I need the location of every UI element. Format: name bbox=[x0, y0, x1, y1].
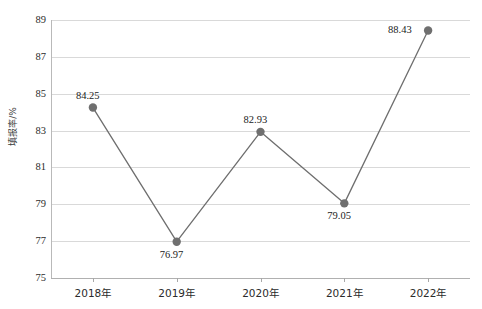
y-axis-tick-label: 83 bbox=[20, 126, 46, 137]
y-axis-tick-labels: 8987858381797775 bbox=[20, 0, 46, 309]
gridline bbox=[51, 57, 470, 58]
data-point-label: 79.05 bbox=[327, 211, 351, 222]
x-axis-tick-label: 2019年 bbox=[142, 285, 212, 300]
y-axis-tick-label: 75 bbox=[20, 273, 46, 284]
plot-area bbox=[51, 20, 470, 278]
y-axis-tick-label: 79 bbox=[20, 199, 46, 210]
y-axis-title: 填报率/% bbox=[6, 82, 19, 172]
y-axis-tick-label: 85 bbox=[20, 89, 46, 100]
y-axis-tick-label: 87 bbox=[20, 52, 46, 63]
data-point-label: 84.25 bbox=[76, 91, 100, 102]
y-axis-tick-label: 81 bbox=[20, 162, 46, 173]
x-axis-tick-mark bbox=[428, 278, 429, 282]
x-axis-tick-mark bbox=[261, 278, 262, 282]
x-axis-tick-label: 2022年 bbox=[393, 285, 463, 300]
y-axis-tick-label: 77 bbox=[20, 236, 46, 247]
x-axis-tick-label: 2021年 bbox=[309, 285, 379, 300]
gridline bbox=[51, 20, 470, 21]
gridline bbox=[51, 167, 470, 168]
data-point-label: 82.93 bbox=[244, 115, 268, 126]
gridline bbox=[51, 241, 470, 242]
x-axis-tick-mark bbox=[177, 278, 178, 282]
gridline bbox=[51, 204, 470, 205]
x-axis-tick-mark bbox=[344, 278, 345, 282]
y-axis-tick-label: 89 bbox=[20, 15, 46, 26]
y-axis-line bbox=[51, 20, 52, 278]
x-axis-tick-label: 2020年 bbox=[226, 285, 296, 300]
x-axis-tick-mark bbox=[93, 278, 94, 282]
data-point-label: 76.97 bbox=[160, 250, 184, 261]
gridline bbox=[51, 131, 470, 132]
line-chart: 填报率/% 8987858381797775 2018年2019年2020年20… bbox=[0, 0, 482, 309]
gridline bbox=[51, 94, 470, 95]
data-point-label: 88.43 bbox=[388, 25, 412, 36]
x-axis-tick-label: 2018年 bbox=[58, 285, 128, 300]
